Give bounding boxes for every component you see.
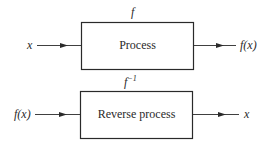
bottom-function-label: f−1 [124,76,137,88]
top-output-arrowhead-icon [216,43,224,48]
process-box-label: Process [81,39,194,51]
bottom-input-label: f(x) [14,108,31,120]
top-function-label: f [131,6,134,18]
reverse-process-box-label: Reverse process [80,108,193,120]
bottom-output-arrowhead-icon [218,112,226,117]
top-output-label: f(x) [240,39,257,51]
bottom-input-arrowhead-icon [59,112,67,117]
top-input-label: x [27,39,32,51]
diagram-canvas [0,0,276,144]
top-input-arrowhead-icon [60,43,68,48]
inverse-function-superscript: −1 [127,74,136,83]
bottom-output-label: x [244,108,249,120]
